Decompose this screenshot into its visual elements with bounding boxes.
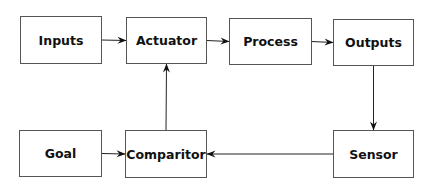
edge-sensor-to-comparitor [207,151,334,158]
edge-process-to-outputs [312,39,334,46]
node-comparitor: Comparitor [126,131,207,178]
node-label: Outputs [345,35,402,50]
edge-goal-to-comparitor [102,150,126,157]
node-label: Inputs [39,33,84,48]
node-label: Actuator [136,33,198,48]
edge-outputs-to-sensor [370,66,377,131]
node-outputs: Outputs [334,20,414,66]
node-label: Process [243,34,298,49]
edge-actuator-to-process [207,38,230,45]
node-sensor: Sensor [334,131,414,178]
edge-comparitor-to-actuator [163,64,170,131]
node-label: Sensor [349,147,398,162]
feedback-loop-diagram: InputsActuatorProcessOutputsGoalComparit… [0,0,435,189]
edge-inputs-to-actuator [102,37,127,44]
node-goal: Goal [20,131,102,177]
node-actuator: Actuator [127,18,207,64]
node-label: Goal [45,146,77,161]
node-inputs: Inputs [21,17,102,64]
node-process: Process [230,19,312,65]
connector-line [166,64,167,131]
node-label: Comparitor [126,147,206,162]
